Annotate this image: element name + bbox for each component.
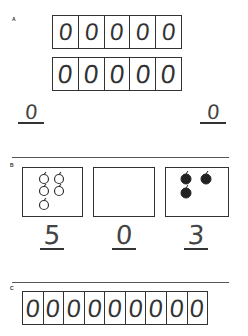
- digit-cell: 0: [53, 16, 79, 48]
- apple-filled-icon: [179, 171, 219, 201]
- answer-digit: 0: [24, 102, 38, 122]
- digit: 0: [57, 61, 74, 87]
- section-a-answer-left: 0: [18, 102, 44, 124]
- digit-cell: 0: [130, 16, 156, 48]
- digit-cell: 0: [105, 292, 126, 324]
- answer-digit: 0: [115, 222, 133, 248]
- digit-cell: 0: [85, 292, 106, 324]
- section-c-label: C: [10, 285, 14, 291]
- digit-cell: 0: [167, 292, 188, 324]
- digit-cell: 0: [156, 58, 181, 90]
- digit: 0: [168, 296, 185, 321]
- apple-box-empty: [93, 167, 155, 217]
- digit-cell: 0: [79, 16, 105, 48]
- digit-cell: 0: [23, 292, 44, 324]
- digit: 0: [107, 296, 124, 321]
- apple-outline-icon: [37, 171, 71, 215]
- digit: 0: [148, 296, 165, 321]
- answer-digit: 5: [43, 222, 61, 248]
- digit: 0: [189, 296, 206, 321]
- digit: 0: [134, 61, 151, 87]
- section-b-answer-1: 5: [40, 222, 64, 250]
- apple-box-outline: [22, 167, 83, 217]
- digit: 0: [25, 296, 42, 321]
- digit: 0: [66, 296, 83, 321]
- digit-cell: 0: [53, 58, 79, 90]
- digit-cell: 0: [156, 16, 181, 48]
- digit-cell: 0: [146, 292, 167, 324]
- section-b-label: B: [10, 162, 14, 168]
- digit: 0: [83, 61, 100, 87]
- digit: 0: [109, 20, 125, 44]
- digit: 0: [161, 20, 177, 44]
- digit: 0: [83, 20, 99, 44]
- digit-cell: 0: [188, 292, 208, 324]
- divider-b-c: [12, 282, 229, 283]
- section-a-row2-grid: 0 0 0 0 0: [52, 57, 182, 91]
- digit: 0: [127, 296, 144, 321]
- digit: 0: [108, 61, 125, 87]
- digit-cell: 0: [64, 292, 85, 324]
- digit-cell: 0: [130, 58, 156, 90]
- section-a-answer-right: 0: [200, 102, 226, 124]
- digit: 0: [57, 20, 73, 44]
- digit-cell: 0: [105, 16, 131, 48]
- section-a-label: A: [12, 16, 16, 22]
- digit: 0: [135, 20, 151, 44]
- digit-cell: 0: [44, 292, 65, 324]
- apple-box-filled: [165, 167, 229, 217]
- digit-cell: 0: [126, 292, 147, 324]
- section-c-grid: 0 0 0 0 0 0 0 0 0: [22, 291, 208, 325]
- section-b-answer-3: 3: [184, 222, 208, 250]
- answer-digit: 3: [187, 222, 205, 248]
- section-b-answer-2: 0: [112, 222, 136, 250]
- section-a-row1-grid: 0 0 0 0 0: [52, 15, 182, 49]
- answer-digit: 0: [206, 102, 220, 122]
- digit: 0: [45, 296, 62, 321]
- digit: 0: [160, 61, 177, 87]
- digit: 0: [86, 296, 103, 321]
- digit-cell: 0: [79, 58, 105, 90]
- divider-a-b: [12, 157, 229, 158]
- digit-cell: 0: [105, 58, 131, 90]
